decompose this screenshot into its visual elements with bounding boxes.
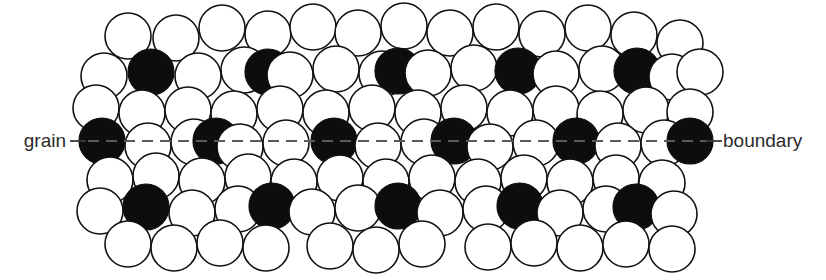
lattice-atom	[473, 4, 519, 50]
lattice-atom	[105, 221, 151, 267]
lattice-atom	[199, 5, 245, 51]
lattice-atom	[263, 120, 309, 166]
lattice-atom	[511, 220, 557, 266]
boundary-atom	[128, 49, 174, 95]
atom-packing-canvas: grain boundary	[0, 0, 826, 280]
atoms-layer	[73, 3, 723, 273]
lattice-atom	[313, 46, 359, 92]
lattice-atom	[565, 5, 611, 51]
lattice-atom	[603, 221, 649, 267]
lattice-atom	[307, 223, 353, 269]
lattice-atom	[465, 224, 511, 270]
lattice-atom	[451, 45, 497, 91]
lattice-atom	[557, 225, 603, 271]
lattice-atom	[151, 225, 197, 271]
lattice-atom	[381, 3, 427, 49]
lattice-atom	[405, 50, 451, 96]
lattice-atom	[399, 221, 445, 267]
lattice-atom	[677, 49, 723, 95]
lattice-atom	[290, 4, 336, 50]
lattice-atom	[243, 225, 289, 271]
lattice-atom	[649, 226, 695, 272]
lattice-atom	[197, 220, 243, 266]
grain-label: grain	[24, 130, 66, 151]
boundary-atom	[249, 183, 295, 229]
grain-boundary-figure: grain boundary	[0, 0, 826, 280]
boundary-label: boundary	[723, 130, 803, 151]
lattice-atom	[335, 185, 381, 231]
lattice-atom	[353, 227, 399, 273]
